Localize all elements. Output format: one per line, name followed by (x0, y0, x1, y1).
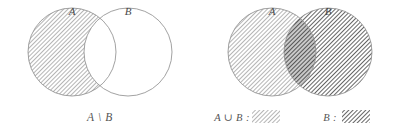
legend-swatch-union (252, 110, 280, 123)
right-label-a: A (268, 5, 276, 17)
legend-label-b: B : (323, 112, 337, 123)
shaded-region-b-only (0, 0, 402, 131)
right-label-b: B (325, 5, 332, 17)
set-union-diagram: A B (0, 0, 402, 131)
figure-canvas: A B A \ B A B A ∪ B : (0, 0, 402, 131)
legend-label-union: A ∪ B : (213, 112, 250, 123)
legend-swatch-b (342, 110, 370, 123)
legend-entry-b: B : (323, 110, 370, 123)
legend-entry-union: A ∪ B : (213, 110, 280, 123)
venn-figure-root: A B A \ B A B A ∪ B : (0, 0, 402, 131)
